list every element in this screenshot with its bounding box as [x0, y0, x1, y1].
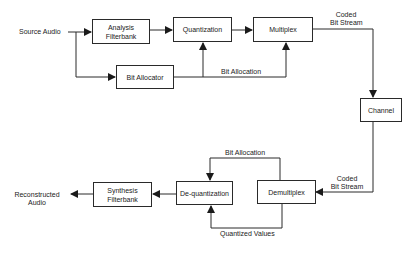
- bit-stream-line2: Bit Stream: [329, 183, 365, 191]
- multiplex-label: Multiplex: [269, 25, 297, 34]
- dequantization-block: De-quantization: [176, 181, 233, 205]
- decoder-bit-allocation-label: Bit Allocation: [225, 149, 265, 157]
- encoder-coded-bit-stream-label: Coded Bit Stream: [330, 11, 362, 27]
- arrow-demux-quantized-values: [211, 204, 282, 228]
- synthesis-filterbank-block: Synthesis Filterbank: [93, 182, 152, 207]
- coded-line1: Coded: [330, 11, 362, 19]
- encoder-bit-allocation-label: Bit Allocation: [221, 68, 261, 76]
- dequantization-label: De-quantization: [180, 189, 229, 198]
- codec-diagram: Source Audio Analysis Filterbank Quantiz…: [0, 0, 420, 254]
- bit-stream-line2: Bit Stream: [330, 19, 362, 27]
- analysis-filterbank-block: Analysis Filterbank: [92, 19, 150, 44]
- reconstructed-line1: Reconstructed: [14, 191, 60, 199]
- source-audio-label: Source Audio: [19, 28, 61, 36]
- quantization-label: Quantization: [183, 25, 222, 34]
- analysis-label-line2: Filterbank: [106, 32, 137, 41]
- audio-line2: Audio: [14, 199, 60, 207]
- demultiplex-label: Demultiplex: [268, 188, 305, 197]
- quantized-values-label: Quantized Values: [220, 230, 275, 238]
- decoder-coded-bit-stream-label: Coded Bit Stream: [329, 175, 365, 191]
- arrow-demux-bit-allocation: [210, 158, 280, 180]
- demultiplex-block: Demultiplex: [257, 180, 316, 204]
- channel-block: Channel: [360, 98, 402, 122]
- synthesis-label-line2: Filterbank: [107, 195, 138, 204]
- coded-line1: Coded: [329, 175, 365, 183]
- bit-allocator-label: Bit Allocator: [127, 73, 164, 82]
- bit-allocator-block: Bit Allocator: [116, 65, 174, 89]
- reconstructed-audio-label: Reconstructed Audio: [14, 191, 60, 207]
- synthesis-label-line1: Synthesis: [107, 186, 138, 195]
- multiplex-block: Multiplex: [253, 17, 313, 42]
- quantization-block: Quantization: [173, 17, 232, 42]
- arrow-multiplex-to-channel: [313, 29, 373, 97]
- channel-label: Channel: [368, 106, 394, 115]
- analysis-label-line1: Analysis: [106, 23, 137, 32]
